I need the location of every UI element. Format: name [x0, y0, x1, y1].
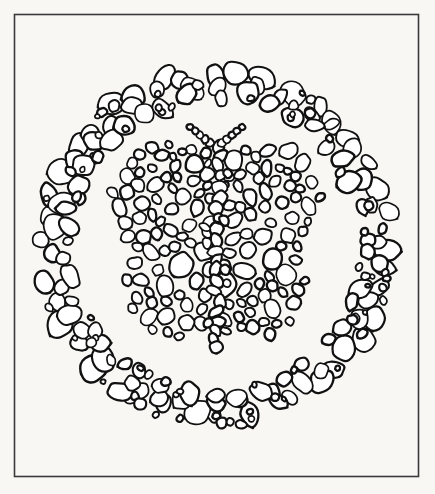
left-wing-pebble [133, 212, 147, 224]
body-side-pebble [220, 327, 231, 334]
ring-filler-pebble [109, 100, 120, 112]
ring-filler-pebble [247, 95, 254, 101]
ring-filler-pebble [153, 412, 159, 418]
left-wing-pebble [165, 141, 172, 149]
ring-filler-pebble [44, 196, 50, 202]
left-wing-pebble [135, 167, 144, 177]
left-wing-pebble [134, 196, 150, 210]
right-wing-pebble [279, 143, 298, 159]
ring-filler-pebble [365, 284, 370, 288]
left-wing-pebble [178, 149, 186, 156]
ring-filler-pebble [378, 223, 386, 234]
ring-filler-pebble [300, 91, 305, 96]
right-wing-pebble [254, 229, 272, 245]
ring-pebble [118, 358, 132, 369]
right-wing-pebble [245, 308, 255, 317]
ring-filler-pebble [326, 135, 333, 142]
left-wing-pebble [151, 227, 162, 240]
ring-filler-pebble [306, 95, 315, 103]
ring-filler-pebble [86, 338, 96, 348]
ring-filler-pebble [248, 416, 254, 422]
ring-pebble [322, 334, 336, 345]
ring-pebble [57, 305, 82, 325]
left-wing-pebble [148, 325, 157, 334]
left-wing-pebble [133, 274, 149, 286]
left-wing-pebble [179, 315, 195, 330]
left-wing-pebble [127, 257, 142, 269]
right-wing-pebble [222, 248, 236, 258]
ring-pebble [346, 293, 358, 311]
right-wing-pebble [306, 176, 318, 189]
left-wing-pebble [112, 198, 126, 217]
ring-filler-pebble [363, 310, 367, 315]
right-wing-pebble [240, 242, 256, 259]
left-wing-pebble [122, 274, 132, 286]
pebble-mosaic-butterfly-drawing: Pebble Mosaic Butterfly in a Ring [0, 0, 435, 494]
left-wing-pebble [163, 327, 172, 337]
ring-filler-pebble [92, 151, 103, 163]
ring-filler-pebble [176, 415, 183, 422]
left-wing-pebble [173, 173, 181, 183]
ring-filler-pebble [155, 91, 161, 97]
ring-filler-pebble [122, 126, 129, 132]
body-side-pebble [223, 169, 232, 178]
right-wing-pebble [286, 296, 301, 310]
left-wing-pebble [174, 290, 184, 299]
right-wing-pebble [272, 320, 282, 328]
left-wing-pebble [148, 164, 157, 172]
right-wing-pebble [265, 218, 276, 227]
left-wing-pebble [128, 303, 137, 313]
left-wing-pebble [170, 153, 177, 161]
right-wing-pebble [295, 185, 305, 193]
right-wing-pebble [276, 197, 289, 209]
ring-filler-pebble [247, 409, 253, 415]
right-wing-pebble [267, 280, 278, 291]
ring-filler-pebble [383, 275, 391, 281]
right-wing-pebble [285, 317, 294, 326]
ring-filler-pebble [177, 389, 184, 394]
left-wing-pebble [169, 242, 180, 252]
left-wing-pebble [120, 185, 134, 200]
ring-pebble [135, 104, 154, 123]
right-wing-pebble [235, 202, 245, 213]
right-wing-pebble [240, 229, 253, 239]
right-wing-pebble [237, 323, 246, 331]
right-wing-pebble [300, 277, 309, 284]
right-wing-pebble [263, 249, 282, 270]
left-wing-pebble [203, 181, 212, 189]
ring-filler-pebble [252, 382, 256, 388]
left-wing-pebble [121, 230, 135, 242]
ring-filler-pebble [72, 191, 81, 202]
right-wing-pebble [259, 318, 270, 326]
ring-filler-pebble [364, 201, 373, 210]
left-wing-pebble [169, 252, 193, 277]
left-wing-pebble [147, 297, 158, 309]
right-wing-pebble [244, 208, 256, 221]
ring-filler-pebble [95, 114, 100, 118]
ring-filler-pebble [282, 397, 286, 402]
ring-filler-pebble [100, 379, 105, 384]
left-wing-pebble [186, 145, 197, 154]
right-wing-pebble [289, 255, 302, 264]
ring-filler-pebble [168, 103, 174, 111]
right-wing-pebble [240, 146, 250, 155]
ring-filler-pebble [379, 284, 387, 292]
right-wing-pebble [264, 328, 275, 341]
left-wing-pebble [174, 333, 184, 341]
ring-pebble [314, 363, 328, 378]
illustration-artboard: Pebble Mosaic Butterfly in a Ring butter… [0, 0, 435, 494]
ring-pebble [65, 296, 78, 306]
ring-filler-pebble [380, 296, 387, 305]
ring-filler-pebble [45, 303, 53, 311]
right-wing-pebble [234, 312, 244, 323]
ring-filler-pebble [361, 272, 370, 280]
right-wing-pebble [285, 212, 299, 224]
left-wing-pebble [165, 203, 178, 214]
ring-filler-pebble [66, 167, 76, 176]
ring-filler-pebble [192, 80, 203, 90]
right-wing-pebble [276, 242, 286, 251]
body-side-pebble [220, 265, 230, 275]
ring-filler-pebble [357, 329, 368, 339]
right-wing-pebble [278, 287, 287, 297]
left-wing-pebble [127, 157, 138, 168]
